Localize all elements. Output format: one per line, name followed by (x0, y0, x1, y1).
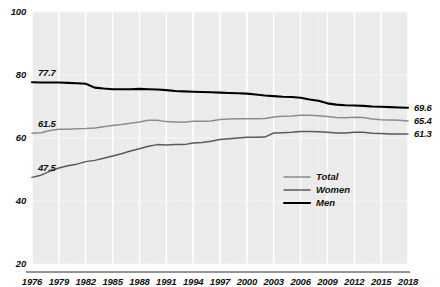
series-start-label-women: 47.5 (38, 162, 56, 173)
x-axis-tick-label: 1994 (179, 276, 207, 287)
series-start-label-men: 77.7 (38, 67, 56, 78)
x-axis-tick-label: 1982 (72, 276, 100, 287)
legend-label-total: Total (316, 171, 338, 182)
x-axis-tick-label: 1976 (18, 276, 46, 287)
line-chart: 2040608010019761979198219851988199119941… (0, 0, 440, 287)
x-axis-tick-label: 2018 (394, 276, 422, 287)
legend-label-women: Women (316, 184, 350, 195)
x-axis-tick-label: 2009 (313, 276, 341, 287)
x-axis-tick-label: 2012 (340, 276, 368, 287)
y-axis-tick-label: 60 (0, 132, 26, 143)
series-end-label-women: 61.3 (414, 128, 432, 139)
x-axis-tick-label: 1985 (99, 276, 127, 287)
x-axis-tick-label: 1997 (206, 276, 234, 287)
series-end-label-total: 65.4 (414, 115, 432, 126)
x-axis-tick-label: 1988 (125, 276, 153, 287)
y-axis-tick-label: 80 (0, 69, 26, 80)
x-axis-tick-label: 2003 (260, 276, 288, 287)
x-axis-tick-label: 1979 (45, 276, 73, 287)
chart-canvas (0, 0, 440, 287)
x-axis-tick-label: 1991 (152, 276, 180, 287)
y-axis-tick-label: 100 (0, 6, 26, 17)
x-axis-tick-label: 2015 (367, 276, 395, 287)
series-start-label-total: 61.5 (38, 118, 56, 129)
y-axis-tick-label: 20 (0, 258, 26, 269)
y-axis-tick-label: 40 (0, 195, 26, 206)
x-axis-tick-label: 2006 (287, 276, 315, 287)
series-end-label-men: 69.6 (414, 102, 432, 113)
x-axis-tick-label: 2000 (233, 276, 261, 287)
legend-label-men: Men (316, 197, 335, 208)
